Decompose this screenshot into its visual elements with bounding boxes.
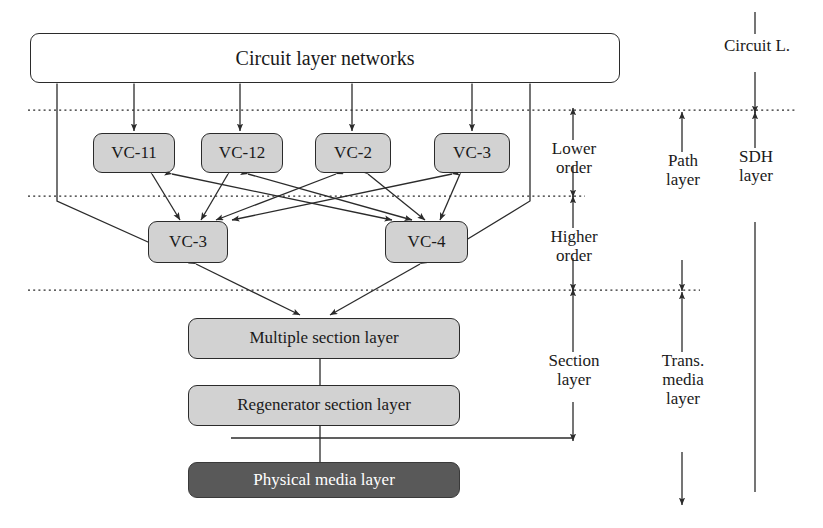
node-multiple-section-layer[interactable]: Multiple section layer — [188, 318, 460, 359]
node-vc-4[interactable]: VC-4 — [385, 221, 468, 263]
annotation-trans-media-layer: Trans. media layer — [645, 351, 721, 408]
node-label: Circuit layer networks — [236, 47, 415, 69]
node-vc-3-lower[interactable]: VC-3 — [434, 133, 510, 173]
node-label: VC-11 — [111, 144, 157, 163]
node-label: VC-3 — [453, 144, 491, 163]
link-vc4-multiplesection — [330, 264, 420, 315]
node-vc-2[interactable]: VC-2 — [315, 133, 391, 173]
node-regenerator-section-layer[interactable]: Regenerator section layer — [188, 385, 460, 426]
annotation-section-layer: Section layer — [533, 351, 615, 389]
link-vc12-vc4 — [248, 174, 412, 220]
link-vc3low-vc3high — [232, 174, 452, 220]
annotation-sdh-layer: SDH layer — [718, 147, 794, 185]
link-vc2-vc3high — [216, 174, 336, 220]
node-vc-3-higher[interactable]: VC-3 — [148, 221, 228, 263]
node-label: Physical media layer — [253, 471, 395, 490]
node-circuit-layer-networks[interactable]: Circuit layer networks — [30, 33, 620, 83]
node-label: Regenerator section layer — [237, 396, 411, 415]
node-label: VC-2 — [334, 144, 372, 163]
node-vc-11[interactable]: VC-11 — [93, 133, 175, 173]
link-vc11-vc3high — [152, 174, 180, 220]
node-label: Multiple section layer — [249, 329, 398, 348]
node-label: VC-4 — [408, 233, 446, 252]
node-vc-12[interactable]: VC-12 — [201, 133, 283, 173]
node-label: VC-12 — [219, 144, 265, 163]
annotation-higher-order: Higher order — [533, 227, 615, 265]
sdh-layer-architecture-figure: Circuit layer networks VC-11 VC-12 VC-2 … — [0, 0, 823, 528]
annotation-circuit-l: Circuit L. — [703, 36, 811, 55]
annotation-lower-order: Lower order — [533, 139, 615, 177]
node-physical-media-layer[interactable]: Physical media layer — [188, 462, 460, 498]
annotation-path-layer: Path layer — [645, 151, 721, 189]
link-vc3low-vc4 — [440, 174, 460, 220]
node-label: VC-3 — [169, 233, 207, 252]
